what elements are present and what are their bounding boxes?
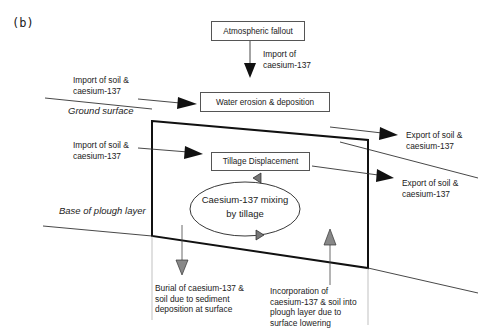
mixing-line-2: by tillage	[195, 207, 295, 221]
panel-label: (b)	[12, 16, 34, 30]
base-plough-label: Base of plough layer	[59, 206, 146, 217]
import-top-label: Import of soil & caesium-137	[73, 75, 129, 96]
export-mid-label: Export of soil & caesium-137	[402, 178, 458, 199]
import-mid-label: Import of soil & caesium-137	[73, 140, 129, 161]
incorporation-label: Incorporation of caesium-137 & soil into…	[270, 286, 357, 328]
mixing-line-1: Caesium-137 mixing	[195, 193, 295, 207]
burial-label: Burial of caesium-137 & soil due to sedi…	[155, 283, 244, 315]
mixing-label: Caesium-137 mixing by tillage	[195, 193, 295, 221]
import-caesium-label: Import of caesium-137	[263, 49, 311, 70]
water-erosion-box: Water erosion & deposition	[200, 92, 330, 112]
tillage-displacement-box: Tillage Displacement	[211, 152, 310, 171]
ground-surface-label: Ground surface	[68, 106, 133, 117]
export-top-label: Export of soil & caesium-137	[406, 130, 462, 151]
atmospheric-fallout-box: Atmospheric fallout	[211, 21, 305, 41]
